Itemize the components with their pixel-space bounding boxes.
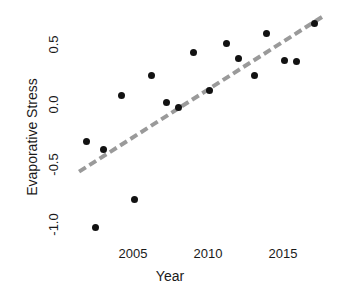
data-point — [163, 99, 170, 106]
data-point — [235, 55, 242, 62]
data-point — [251, 72, 258, 79]
y-tick-label: 0.5 — [46, 28, 61, 62]
x-tick-label: 2005 — [103, 246, 163, 261]
data-point — [92, 224, 99, 231]
x-tick-label: 2010 — [178, 246, 238, 261]
y-tick-label: -0.5 — [46, 148, 61, 182]
data-point — [175, 104, 182, 111]
data-point — [281, 57, 288, 64]
data-point — [206, 87, 213, 94]
data-point — [118, 92, 125, 99]
data-point — [311, 20, 318, 27]
x-tick-label: 2015 — [253, 246, 313, 261]
scatter-plot-figure: Evaporative Stress Year 0.50.0-0.5-1.0 2… — [0, 0, 340, 297]
y-axis-title: Evaporative Stress — [24, 52, 40, 222]
data-point — [293, 58, 300, 65]
data-point — [131, 196, 138, 203]
data-point — [190, 49, 197, 56]
y-tick-label: -1.0 — [46, 208, 61, 242]
data-point — [223, 40, 230, 47]
data-point — [148, 72, 155, 79]
trend-line — [78, 15, 323, 173]
y-tick-label: 0.0 — [46, 88, 61, 122]
data-point — [100, 146, 107, 153]
data-point — [83, 138, 90, 145]
x-axis-title: Year — [0, 268, 340, 284]
data-point — [263, 30, 270, 37]
